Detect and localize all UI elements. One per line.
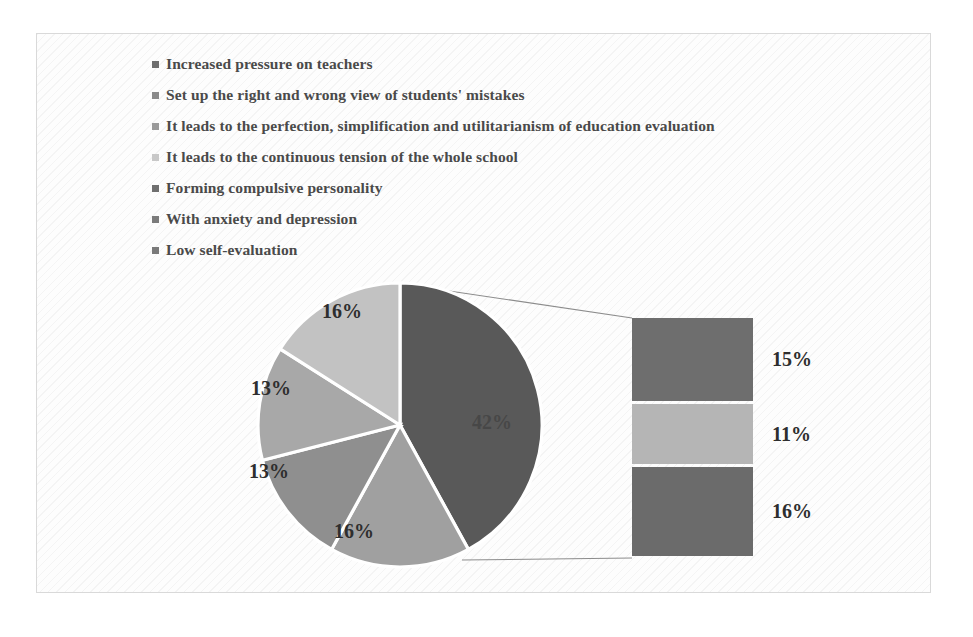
pie-slice-label-other: 42% bbox=[472, 411, 512, 434]
bar-segment-label: 16% bbox=[772, 500, 812, 523]
bar-segment bbox=[632, 467, 753, 556]
legend-item: With anxiety and depression bbox=[152, 210, 852, 241]
bar-segment bbox=[632, 404, 753, 464]
bar-segment-label: 15% bbox=[772, 348, 812, 371]
legend-swatch-icon bbox=[152, 154, 159, 161]
bar-segment-label: 11% bbox=[772, 423, 811, 446]
pie-slice-label: 13% bbox=[249, 460, 289, 483]
legend-swatch-icon bbox=[152, 123, 159, 130]
pie-slice-label: 13% bbox=[251, 377, 291, 400]
legend-item-label: Increased pressure on teachers bbox=[166, 55, 373, 73]
legend-item: It leads to the perfection, simplificati… bbox=[152, 117, 852, 148]
legend-item-label: Low self-evaluation bbox=[166, 241, 298, 259]
legend-swatch-icon bbox=[152, 92, 159, 99]
legend-item-label: It leads to the perfection, simplificati… bbox=[166, 117, 715, 135]
pie-chart: 42% 16% 13% 13% 16% bbox=[250, 275, 550, 575]
legend-swatch-icon bbox=[152, 61, 159, 68]
legend-swatch-icon bbox=[152, 185, 159, 192]
pie-slice-label: 16% bbox=[322, 300, 362, 323]
legend-item: Low self-evaluation bbox=[152, 241, 852, 272]
bar-of-pie: 15% 11% 16% bbox=[632, 318, 753, 559]
legend-item-label: Forming compulsive personality bbox=[166, 179, 383, 197]
legend-swatch-icon bbox=[152, 247, 159, 254]
legend-item-label: With anxiety and depression bbox=[166, 210, 357, 228]
legend-item: Set up the right and wrong view of stude… bbox=[152, 86, 852, 117]
pie-slice-label: 16% bbox=[334, 520, 374, 543]
bar-segment bbox=[632, 318, 753, 401]
legend-item: Forming compulsive personality bbox=[152, 179, 852, 210]
legend-item-label: It leads to the continuous tension of th… bbox=[166, 148, 518, 166]
legend-item: Increased pressure on teachers bbox=[152, 55, 852, 86]
legend-swatch-icon bbox=[152, 216, 159, 223]
chart-legend: Increased pressure on teachers Set up th… bbox=[152, 55, 852, 272]
legend-item-label: Set up the right and wrong view of stude… bbox=[166, 86, 525, 104]
pie-chart-figure: Increased pressure on teachers Set up th… bbox=[0, 0, 973, 637]
legend-item: It leads to the continuous tension of th… bbox=[152, 148, 852, 179]
